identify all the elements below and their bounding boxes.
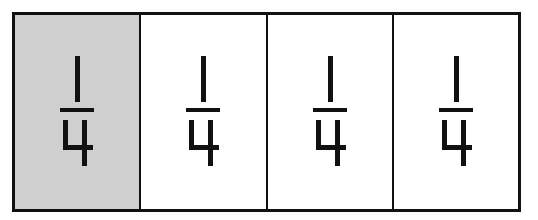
fraction-one-quarter [57, 56, 97, 168]
fraction-cell-4 [394, 15, 518, 209]
fraction-one-quarter [183, 56, 223, 168]
fraction-one-quarter [436, 56, 476, 168]
fraction-cell-3 [268, 15, 394, 209]
fraction-glyph [57, 56, 97, 168]
fraction-one-quarter [310, 56, 350, 168]
fraction-glyph [436, 56, 476, 168]
fraction-glyph [310, 56, 350, 168]
fraction-glyph [183, 56, 223, 168]
fraction-cell-2 [141, 15, 267, 209]
fraction-cell-1-shaded [15, 15, 141, 209]
fraction-strip [12, 12, 521, 212]
